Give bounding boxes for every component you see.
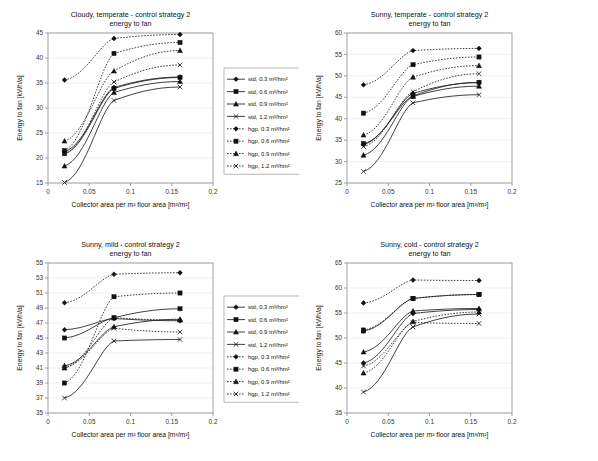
x-tick-label: 0.05 xyxy=(382,188,395,195)
legend-item-4[interactable]: hgp, 0.3 m³/hm² xyxy=(227,354,290,360)
series-6 xyxy=(62,48,183,143)
series-2 xyxy=(361,84,482,158)
x-axis-label: Collector area per m² floor area [m³/m²] xyxy=(371,431,489,439)
y-tick-label: 45 xyxy=(335,359,343,366)
x-tick-label: 0.15 xyxy=(166,418,179,425)
y-tick-label: 43 xyxy=(36,349,44,356)
series-marker xyxy=(361,169,366,174)
series-marker xyxy=(361,328,365,332)
series-marker xyxy=(178,40,182,44)
x-tick-label: 0.15 xyxy=(465,188,478,195)
series-0 xyxy=(361,80,481,147)
series-4 xyxy=(62,270,182,305)
x-axis-label: Collector area per m² floor area [m³/m²] xyxy=(371,201,489,209)
series-line xyxy=(65,328,181,367)
series-7 xyxy=(62,326,182,370)
legend-item-5[interactable]: hgp, 0.6 m³/hm² xyxy=(227,138,290,144)
y-tick-label: 45 xyxy=(36,334,44,341)
y-tick-label: 40 xyxy=(335,384,343,391)
y-axis-label: Energy to fan [kWh/a] xyxy=(315,75,323,140)
y-tick-label: 55 xyxy=(335,51,343,58)
legend-label: hgp, 0.3 m³/hm² xyxy=(248,354,290,360)
x-tick-label: 0.05 xyxy=(83,188,96,195)
chart-title: Sunny, mild - control strategy 2 xyxy=(81,240,180,249)
chart-sunny-temperate: Sunny, temperate - control strategy 2ene… xyxy=(299,0,598,231)
series-marker xyxy=(62,300,67,305)
legend-label: std, 1.2 m³/hm² xyxy=(248,114,288,120)
series-1 xyxy=(62,75,182,155)
series-3 xyxy=(62,85,182,185)
legend-item-2[interactable]: std, 0.9 m³/hm² xyxy=(227,329,288,335)
y-tick-label: 60 xyxy=(335,29,343,36)
series-marker xyxy=(112,98,117,103)
series-marker xyxy=(477,278,482,283)
y-tick-label: 53 xyxy=(36,274,44,281)
chart-title: Sunny, temperate - control strategy 2 xyxy=(371,10,489,19)
series-6 xyxy=(361,63,482,137)
legend-box xyxy=(224,68,299,174)
x-tick-label: 0.1 xyxy=(126,418,135,425)
x-tick-label: 0.05 xyxy=(83,418,96,425)
series-1 xyxy=(62,307,182,340)
legend-label: std, 1.2 m³/hm² xyxy=(248,342,288,348)
series-line xyxy=(364,310,480,364)
x-tick-label: 0.15 xyxy=(465,418,478,425)
legend-item-6[interactable]: hgp, 0.9 m³/hm² xyxy=(227,379,290,385)
series-marker xyxy=(178,291,182,295)
chart-subtitle: energy to fan xyxy=(409,249,451,258)
y-tick-label: 47 xyxy=(36,319,44,326)
series-line xyxy=(364,86,480,155)
series-marker xyxy=(178,330,183,335)
series-line xyxy=(364,323,480,367)
x-tick-label: 0 xyxy=(345,418,349,425)
y-tick-label: 20 xyxy=(36,154,44,161)
legend-item-0[interactable]: std, 0.3 m³/hm² xyxy=(227,76,288,82)
legend-item-1[interactable]: std, 0.6 m³/hm² xyxy=(227,89,288,95)
y-tick-label: 50 xyxy=(335,334,343,341)
series-marker xyxy=(477,292,481,296)
series-marker xyxy=(62,138,67,143)
legend-item-5[interactable]: hgp, 0.6 m³/hm² xyxy=(227,366,290,372)
series-marker xyxy=(477,63,482,68)
series-line xyxy=(65,273,181,303)
legend-item-0[interactable]: std, 0.3 m³/hm² xyxy=(227,304,288,310)
legend-item-2[interactable]: std, 0.9 m³/hm² xyxy=(227,101,288,107)
legend-label: std, 0.9 m³/hm² xyxy=(248,329,288,335)
series-marker xyxy=(62,381,66,385)
y-tick-label: 37 xyxy=(36,394,44,401)
series-2 xyxy=(62,317,183,368)
y-tick-label: 51 xyxy=(36,289,44,296)
series-6 xyxy=(62,315,183,370)
series-marker xyxy=(112,68,117,73)
legend-label: hgp, 0.6 m³/hm² xyxy=(248,138,290,144)
y-tick-label: 41 xyxy=(36,364,44,371)
series-line xyxy=(65,87,181,183)
legend-label: std, 0.3 m³/hm² xyxy=(248,76,288,82)
y-tick-label: 55 xyxy=(36,259,44,266)
x-tick-label: 0.1 xyxy=(425,188,434,195)
legend-item-4[interactable]: hgp, 0.3 m³/hm² xyxy=(227,126,290,132)
series-marker xyxy=(62,180,67,185)
series-line xyxy=(65,35,181,81)
y-tick-label: 55 xyxy=(335,309,343,316)
series-7 xyxy=(62,63,182,157)
legend-item-1[interactable]: std, 0.6 m³/hm² xyxy=(227,317,288,323)
series-marker xyxy=(112,80,117,85)
series-4 xyxy=(62,32,182,82)
legend-marker xyxy=(234,318,238,322)
legend-item-6[interactable]: hgp, 0.9 m³/hm² xyxy=(227,151,290,157)
legend-label: std, 0.6 m³/hm² xyxy=(248,317,288,323)
y-tick-label: 40 xyxy=(335,115,343,122)
series-marker xyxy=(361,82,366,87)
legend-label: std, 0.9 m³/hm² xyxy=(248,101,288,107)
series-line xyxy=(65,82,181,167)
series-marker xyxy=(112,51,116,55)
series-marker xyxy=(361,132,366,137)
series-marker xyxy=(361,301,366,306)
y-tick-label: 25 xyxy=(335,179,343,186)
y-tick-label: 65 xyxy=(335,259,343,266)
chart-panel-sunny-mild: Sunny, mild - control strategy 2energy t… xyxy=(0,231,299,461)
x-tick-label: 0.15 xyxy=(166,188,179,195)
series-line xyxy=(65,43,181,151)
series-marker xyxy=(361,111,365,115)
